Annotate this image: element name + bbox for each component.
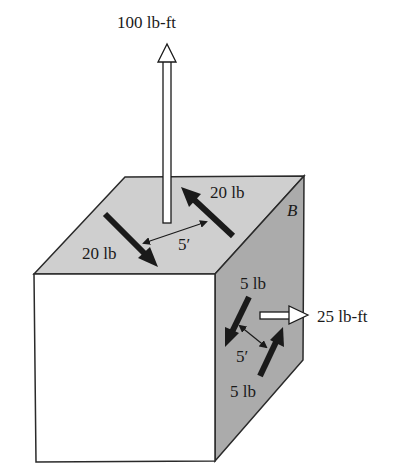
block-couple-diagram: 100 lb-ft 20 lb 20 lb 5′ B 5 lb 25 lb-ft… <box>0 0 417 475</box>
moment-label-25: 25 lb-ft <box>317 308 368 325</box>
distance-label-right: 5′ <box>236 348 248 365</box>
force-label-right-lower: 5 lb <box>230 383 256 400</box>
force-label-top-lower: 20 lb <box>82 245 116 262</box>
diagram-canvas <box>0 0 417 475</box>
force-label-top-upper: 20 lb <box>210 184 244 201</box>
front-face <box>34 274 215 462</box>
distance-label-top: 5′ <box>178 236 190 253</box>
force-label-right-upper: 5 lb <box>240 275 266 292</box>
moment-label-100: 100 lb-ft <box>117 14 176 31</box>
body-label-b: B <box>287 202 297 219</box>
